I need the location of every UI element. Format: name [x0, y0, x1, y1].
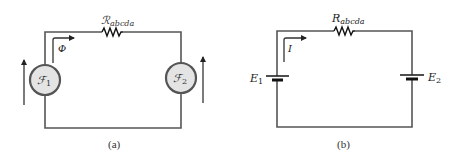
magnetic-circuit-a: ℛabcda Φ ℱ1 ℱ2 (a) — [24, 14, 203, 151]
reluctance-symbol — [102, 28, 123, 36]
caption-a: (a) — [108, 138, 121, 151]
electric-circuit-b: Rabcda I E1 E2 (b) — [249, 12, 441, 151]
circuit-figures: ℛabcda Φ ℱ1 ℱ2 (a) Rabcda I — [0, 0, 453, 162]
caption-b: (b) — [337, 138, 350, 151]
reluctance-label: ℛabcda — [101, 14, 134, 28]
current-label: I — [287, 43, 293, 54]
resistor-symbol — [334, 27, 355, 35]
wire-bottom-a — [45, 93, 181, 128]
battery-1-label: E1 — [249, 72, 263, 86]
battery-2-label: E2 — [427, 71, 441, 85]
wire-top-right-a — [123, 32, 181, 63]
resistor-label: Rabcda — [331, 12, 365, 26]
wire-top-right-b — [355, 31, 412, 75]
flux-label: Φ — [58, 43, 66, 54]
wire-bottom-b — [277, 79, 412, 127]
